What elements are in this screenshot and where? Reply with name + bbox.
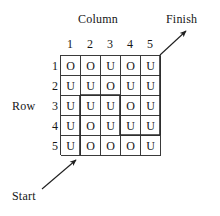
row-header-5: 5 [44, 140, 58, 152]
column-header-4: 4 [120, 38, 140, 50]
grid-cell: U [121, 116, 141, 136]
start-arrow-icon [42, 160, 76, 189]
grid-cell: U [61, 116, 81, 136]
grid-cell: U [81, 96, 101, 116]
maze-grid: O O U O U U U O U U U U U O U U O U U U … [60, 55, 160, 155]
grid-cell: U [141, 76, 161, 96]
grid-cell: O [81, 116, 101, 136]
column-header-5: 5 [140, 38, 160, 50]
row-axis-label: Row [12, 100, 35, 112]
maze-grid-cells: O O U O U U U O U U U U U O U U O U U U … [60, 55, 160, 155]
grid-cell: U [121, 76, 141, 96]
grid-cell: U [101, 116, 121, 136]
grid-cell: U [61, 76, 81, 96]
grid-cell: U [101, 96, 121, 116]
grid-cell: O [101, 76, 121, 96]
grid-cell: U [141, 96, 161, 116]
grid-cell: O [81, 56, 101, 76]
grid-cell: U [61, 96, 81, 116]
grid-cell: O [81, 136, 101, 156]
grid-cell: O [121, 56, 141, 76]
grid-cell: O [101, 136, 121, 156]
maze-figure: Column Finish Row Start 1 2 3 4 5 1 2 3 … [0, 0, 220, 216]
grid-cell: O [121, 96, 141, 116]
row-header-4: 4 [44, 120, 58, 132]
column-axis-label: Column [78, 13, 118, 25]
grid-cell: U [141, 56, 161, 76]
grid-cell: O [61, 56, 81, 76]
grid-cell: U [101, 56, 121, 76]
column-header-1: 1 [60, 38, 80, 50]
grid-cell: U [141, 116, 161, 136]
grid-cell: U [61, 136, 81, 156]
row-header-2: 2 [44, 80, 58, 92]
column-header-3: 3 [100, 38, 120, 50]
row-header-3: 3 [44, 100, 58, 112]
grid-cell: O [121, 136, 141, 156]
grid-cell: U [141, 136, 161, 156]
finish-label: Finish [166, 13, 197, 25]
grid-cell: U [81, 76, 101, 96]
row-header-1: 1 [44, 60, 58, 72]
column-header-2: 2 [80, 38, 100, 50]
start-label: Start [12, 190, 36, 202]
finish-arrow-icon [160, 31, 186, 55]
